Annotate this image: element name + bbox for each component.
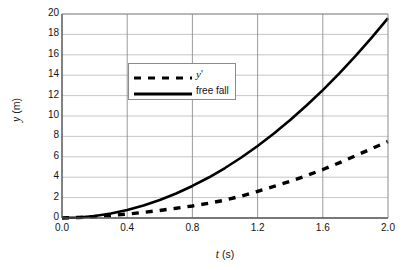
y-tick-label: 18 bbox=[19, 27, 59, 38]
legend-label-free-fall: free fall bbox=[196, 85, 229, 96]
y-tick-label: 6 bbox=[19, 150, 59, 161]
x-axis-label-unit: (s) bbox=[222, 248, 234, 260]
y-tick-label: 2 bbox=[19, 191, 59, 202]
x-tick-label: 0.4 bbox=[107, 222, 147, 233]
x-tick-label: 0.8 bbox=[172, 222, 212, 233]
y-tick-label: 14 bbox=[19, 68, 59, 79]
x-tick-label: 0.0 bbox=[42, 222, 82, 233]
x-tick-label: 1.2 bbox=[238, 222, 278, 233]
y-tick-label: 10 bbox=[19, 109, 59, 120]
y-tick-label: 4 bbox=[19, 170, 59, 181]
y-axis-label-symbol: y bbox=[10, 117, 22, 122]
y-tick-label: 12 bbox=[19, 89, 59, 100]
legend-entry-free-fall: free fall bbox=[133, 82, 229, 98]
chart-legend: y' free fall bbox=[128, 63, 236, 100]
legend-label-y-prime: y' bbox=[196, 68, 203, 80]
x-tick-label: 1.6 bbox=[303, 222, 343, 233]
legend-entry-y-prime: y' bbox=[133, 66, 203, 82]
x-axis-label: t (s) bbox=[62, 248, 388, 260]
y-tick-label: 20 bbox=[19, 7, 59, 18]
legend-key-dashed bbox=[133, 69, 193, 79]
y-tick-label: 16 bbox=[19, 48, 59, 59]
chart-figure: 02468101214161820 0.00.40.81.21.62.0 y (… bbox=[0, 0, 414, 270]
y-tick-label: 0 bbox=[19, 211, 59, 222]
y-tick-label: 8 bbox=[19, 129, 59, 140]
y-axis-label: y (m) bbox=[10, 80, 22, 140]
y-axis-label-unit: (m) bbox=[10, 98, 22, 114]
x-tick-label: 2.0 bbox=[368, 222, 408, 233]
legend-key-solid bbox=[133, 85, 193, 95]
